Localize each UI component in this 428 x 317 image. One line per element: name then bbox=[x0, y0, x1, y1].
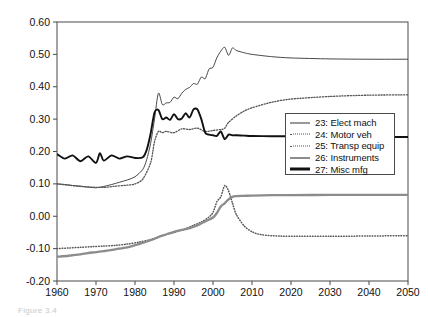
y-axis-tick-label: -0.10 bbox=[26, 242, 50, 254]
x-axis-tick-label: 1970 bbox=[84, 286, 108, 298]
chart-figure: 0.600.500.400.300.200.100.00-0.10-0.2019… bbox=[0, 0, 428, 317]
x-axis-tick-label: 1960 bbox=[45, 286, 69, 298]
y-axis-tick-label: 0.10 bbox=[30, 177, 51, 189]
x-axis-tick-label: 2000 bbox=[201, 286, 225, 298]
y-axis-tick-label: 0.20 bbox=[30, 145, 51, 157]
x-axis-tick-label: 2050 bbox=[396, 286, 420, 298]
y-axis-tick-label: 0.50 bbox=[30, 48, 51, 60]
y-axis-tick-label: 0.30 bbox=[30, 113, 51, 125]
legend-item: 27: Misc mfg bbox=[290, 163, 390, 175]
legend-swatch-icon bbox=[290, 164, 310, 174]
y-axis-tick-label: 0.00 bbox=[30, 210, 51, 222]
x-axis-tick-label: 1990 bbox=[162, 286, 186, 298]
x-axis-tick-label: 2030 bbox=[318, 286, 342, 298]
legend-item: 24: Motor veh bbox=[290, 129, 390, 141]
legend-item-label: 23: Elect mach bbox=[315, 117, 376, 128]
x-axis-tick-label: 2040 bbox=[357, 286, 381, 298]
legend-item: 23: Elect mach bbox=[290, 117, 390, 129]
y-axis-tick-label: 0.60 bbox=[30, 16, 51, 28]
legend-item-label: 25: Transp equip bbox=[315, 140, 384, 151]
legend-swatch-icon bbox=[290, 129, 310, 139]
legend-item: 26: Instruments bbox=[290, 152, 390, 164]
chart-legend: 23: Elect mach24: Motor veh25: Transp eq… bbox=[285, 113, 395, 175]
legend-item-label: 27: Misc mfg bbox=[315, 164, 368, 175]
figure-caption: Figure 3.4 bbox=[18, 306, 57, 315]
legend-swatch-icon bbox=[290, 153, 310, 163]
x-axis-tick-label: 1980 bbox=[123, 286, 147, 298]
x-axis-tick-label: 2010 bbox=[240, 286, 264, 298]
legend-item-label: 24: Motor veh bbox=[315, 129, 372, 140]
y-axis-tick-label: -0.20 bbox=[26, 275, 50, 287]
legend-item: 25: Transp equip bbox=[290, 140, 390, 152]
y-axis-tick-label: 0.40 bbox=[30, 80, 51, 92]
legend-swatch-icon bbox=[290, 118, 310, 128]
legend-item-label: 26: Instruments bbox=[315, 152, 379, 163]
legend-swatch-icon bbox=[290, 141, 310, 151]
x-axis-tick-label: 2020 bbox=[279, 286, 303, 298]
